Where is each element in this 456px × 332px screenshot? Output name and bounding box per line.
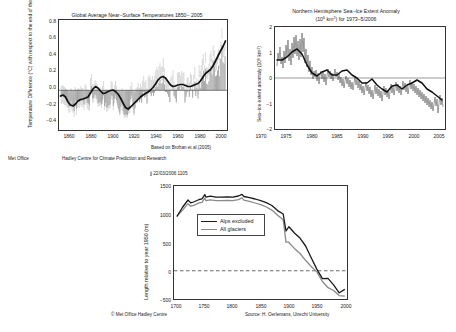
chart1-xtick-5: 1960 — [172, 133, 183, 139]
chart2-ytick-3: −1 — [259, 101, 272, 107]
chart1-xtick-4: 1940 — [150, 133, 161, 139]
chart3-legend: Alps excluded All glaciers — [197, 214, 265, 236]
chart1-caption: Based on Brohan et al.(2005) — [151, 145, 211, 150]
chart2-xtick-4: 1990 — [357, 133, 368, 139]
chart3-ytick-0: 1500 — [152, 183, 171, 189]
chart1-xtick-7: 2000 — [215, 133, 226, 139]
chart2-title-line2: (106 km2) for 1973–5/2006 — [246, 16, 446, 22]
chart2-xtick-6: 2000 — [408, 133, 419, 139]
chart3-xtick-1: 1750 — [198, 303, 209, 309]
chart2-xtick-1: 1975 — [280, 133, 291, 139]
chart2-xtick-2: 1980 — [306, 133, 317, 139]
chart2-monthly-series — [277, 33, 443, 113]
chart1-y-axis-label: Temperature Difference (°C) with respect… — [27, 10, 33, 128]
chart3-ytick-4: −500 — [150, 297, 171, 303]
chart1-ytick-2: 0.4 — [41, 51, 56, 57]
panel-sea-ice-extent: Northern Hemisphere Sea−Ice Extent Anoma… — [236, 0, 456, 160]
chart3-ytick-3: 0 — [152, 269, 171, 275]
chart2-title-line1: Northern Hemisphere Sea−Ice Extent Anoma… — [246, 8, 446, 14]
timestamp-banner: jj 22/03/2006 1105 — [150, 171, 187, 176]
legend-row-alps-excluded: Alps excluded — [201, 217, 260, 225]
chart2-ytick-2: 0 — [261, 75, 272, 81]
legend-row-all-glaciers: All glaciers — [201, 225, 260, 233]
chart2-xtick-7: 2005 — [433, 133, 444, 139]
source-note: Source: H. Oerlemans, Utrecht University — [245, 312, 329, 317]
chart1-xtick-0: 1860 — [63, 133, 74, 139]
climate-figure-page: Global Average Near−Surface Temperatures… — [0, 0, 456, 332]
legend-swatch-all-glaciers — [201, 229, 217, 230]
chart1-ytick-0: 0.8 — [41, 18, 56, 24]
legend-label-alps-excluded: Alps excluded — [220, 218, 254, 224]
chart1-title: Global Average Near−Surface Temperatures… — [38, 12, 236, 18]
chart1-ytick-3: 0.2 — [41, 67, 56, 73]
chart2-svg — [275, 27, 445, 129]
chart1-error-bars — [61, 28, 225, 118]
chart2-xtick-3: 1985 — [331, 133, 342, 139]
chart3-xtick-3: 1850 — [255, 303, 266, 309]
chart1-smoothed-line — [61, 41, 226, 109]
met-office-wordmark: Met Office — [8, 156, 29, 161]
chart2-ytick-1: 1 — [261, 50, 272, 56]
chart2-plot-area — [274, 26, 446, 130]
chart2-ytick-4: −2 — [259, 126, 272, 132]
chart3-svg — [174, 186, 347, 299]
chart1-ytick-4: 0.0 — [39, 84, 56, 90]
chart2-ytick-0: 2 — [261, 24, 272, 30]
chart3-ytick-1: 1000 — [152, 212, 171, 218]
chart3-series-all-glaciers — [177, 198, 345, 296]
legend-swatch-alps-excluded — [201, 221, 217, 222]
chart1-xtick-6: 1980 — [194, 133, 205, 139]
chart3-xtick-6: 2000 — [340, 303, 351, 309]
chart3-xtick-2: 1800 — [226, 303, 237, 309]
panel-global-temperature: Global Average Near−Surface Temperatures… — [0, 0, 236, 160]
chart3-plot-area — [173, 185, 348, 300]
chart2-y-axis-label: Sea−ice extent anomaly (106 km2) — [256, 46, 262, 122]
chart3-ytick-2: 500 — [152, 241, 171, 247]
chart1-xtick-3: 1920 — [128, 133, 139, 139]
chart1-svg — [59, 20, 227, 130]
chart1-ytick-5: −0.2 — [39, 101, 56, 107]
chart1-plot-area — [58, 19, 228, 131]
panel-glacier-length: Length relative to year 1950 (m) Alps ex… — [110, 178, 360, 332]
chart3-y-axis-label: Length relative to year 1950 (m) — [143, 224, 149, 300]
hadley-centre-subtitle: Hadley Centre for Climate Prediction and… — [62, 156, 166, 161]
chart3-series-alps-excluded — [177, 194, 345, 292]
legend-label-all-glaciers: All glaciers — [220, 226, 246, 232]
chart2-xtick-5: 1995 — [382, 133, 393, 139]
chart3-xtick-5: 1950 — [311, 303, 322, 309]
chart2-xtick-0: 1970 — [255, 133, 266, 139]
chart1-ytick-6: −0.4 — [39, 117, 56, 123]
chart1-ytick-1: 0.6 — [41, 34, 56, 40]
chart1-xtick-1: 1880 — [85, 133, 96, 139]
chart3-xtick-0: 1700 — [170, 303, 181, 309]
chart3-xtick-4: 1900 — [283, 303, 294, 309]
copyright-notice: © Met Office Hadley Centre — [111, 312, 167, 317]
chart1-xtick-2: 1900 — [107, 133, 118, 139]
